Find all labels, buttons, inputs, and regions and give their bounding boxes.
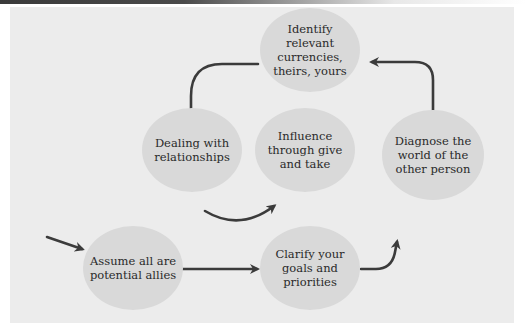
arrow-clarify-to-diagnose <box>361 242 397 269</box>
node-identify-currencies: Identify relevant currencies, theirs, yo… <box>260 8 360 92</box>
arrow-start-to-assume <box>47 237 82 249</box>
arrow-diagnose-to-identify <box>372 62 433 110</box>
node-label: Clarify your goals and priorities <box>275 247 344 289</box>
node-label: Identify relevant currencies, theirs, yo… <box>273 22 346 78</box>
node-clarify-goals-priorities: Clarify your goals and priorities <box>260 226 360 310</box>
node-label: Dealing with relationships <box>154 136 230 164</box>
node-label: Diagnose the world of the other person <box>395 134 472 176</box>
node-label: Influence through give and take <box>268 129 343 171</box>
node-diagnose-other-person: Diagnose the world of the other person <box>382 110 484 200</box>
node-label: Assume all are potential allies <box>90 254 176 282</box>
arrow-dealing-to-influence <box>205 206 274 220</box>
node-influence-give-take: Influence through give and take <box>255 108 355 192</box>
node-assume-potential-allies: Assume all are potential allies <box>83 226 183 310</box>
node-dealing-with-relationships: Dealing with relationships <box>142 108 242 192</box>
